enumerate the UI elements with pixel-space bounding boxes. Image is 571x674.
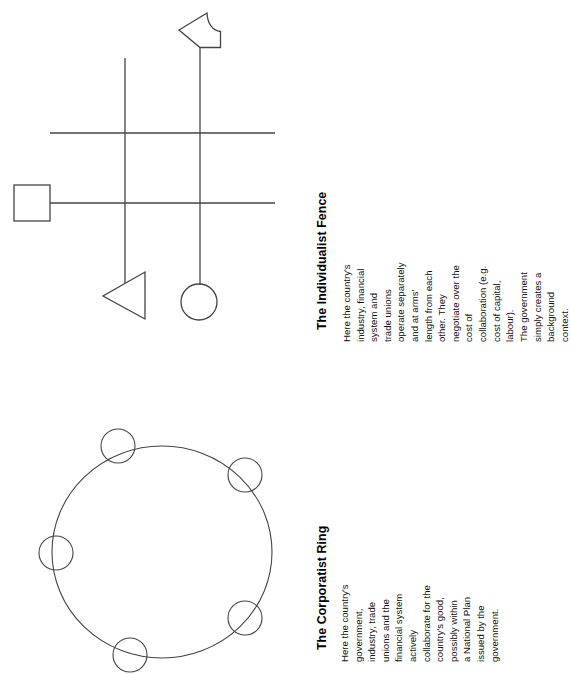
ring-outline <box>52 446 272 658</box>
ring-node-top-right <box>228 458 262 492</box>
ring-node-bottom <box>113 638 147 672</box>
ring-body-wrap: Here the country's government, industry,… <box>338 577 501 662</box>
fence-body-wrap: Here the country's industry, financial s… <box>340 259 571 342</box>
body-text-corporatist-ring: Here the country's government, industry,… <box>338 577 501 662</box>
panel-corporatist-ring: The Corporatist Ring Here the country's … <box>0 350 423 674</box>
triangle-shape <box>103 272 145 319</box>
ring-node-top-left <box>101 429 135 463</box>
ring-node-left <box>39 536 73 570</box>
body-text-individualist-fence: Here the country's industry, financial s… <box>340 259 571 342</box>
page-title-corporatist-ring: The Corporatist Ring <box>316 526 330 650</box>
banner-flag-shape <box>179 13 221 48</box>
ring-diagram <box>0 350 290 674</box>
fence-diagram <box>0 0 290 350</box>
fence-title-wrap: The Individualist Fence <box>316 192 330 330</box>
ring-title-wrap: The Corporatist Ring <box>316 526 330 650</box>
page-title-individualist-fence: The Individualist Fence <box>316 192 330 330</box>
ring-node-bottom-right <box>228 601 262 635</box>
circle-shape <box>181 284 217 320</box>
panel-individualist-fence: The Individualist Fence Here the country… <box>0 0 423 350</box>
square-shape <box>14 185 50 221</box>
